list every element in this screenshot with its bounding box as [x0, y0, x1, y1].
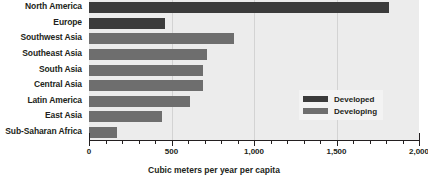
x-tick-1400 [320, 141, 321, 144]
x-tick-900 [238, 141, 239, 144]
category-label: Europe [0, 17, 82, 27]
x-tick-200 [122, 141, 123, 144]
category-label: Latin America [0, 95, 82, 105]
bar [89, 33, 234, 44]
x-tick-0 [89, 141, 90, 146]
x-tick-label: 1,000 [244, 147, 264, 156]
x-tick-1800 [386, 141, 387, 144]
chart-legend: Developed Developing [299, 90, 383, 120]
bar [89, 80, 203, 91]
x-tick-1900 [403, 141, 404, 144]
x-tick-1300 [304, 141, 305, 144]
category-label: North America [0, 1, 82, 11]
category-label: Southeast Asia [0, 48, 82, 58]
bar [89, 111, 162, 122]
x-tick-label: 1,500 [326, 147, 346, 156]
x-tick-1000 [254, 141, 255, 146]
bar [89, 49, 207, 60]
x-tick-700 [205, 141, 206, 144]
x-tick-400 [155, 141, 156, 144]
bar [89, 2, 389, 13]
x-tick-label: 0 [87, 147, 91, 156]
x-tick-100 [106, 141, 107, 144]
horizontal-bar-chart: North AmericaEuropeSouthwest AsiaSouthea… [0, 0, 428, 181]
x-tick-1600 [353, 141, 354, 144]
axis-cap-2000 [419, 133, 420, 141]
legend-label-developing: Developing [334, 107, 377, 116]
x-tick-label: 2,000 [409, 147, 428, 156]
category-label: East Asia [0, 110, 82, 120]
bar [89, 127, 117, 138]
bar [89, 96, 190, 107]
bar [89, 65, 203, 76]
x-tick-300 [139, 141, 140, 144]
category-label: Southwest Asia [0, 32, 82, 42]
x-tick-500 [172, 141, 173, 146]
x-tick-label: 500 [165, 147, 178, 156]
x-tick-800 [221, 141, 222, 144]
x-tick-1700 [370, 141, 371, 144]
category-label: Central Asia [0, 79, 82, 89]
gridline-1000 [254, 0, 255, 140]
x-tick-1200 [287, 141, 288, 144]
x-tick-1500 [337, 141, 338, 146]
x-tick-1100 [271, 141, 272, 144]
legend-item-developing: Developing [303, 105, 377, 117]
legend-label-developed: Developed [334, 95, 374, 104]
bar [89, 18, 165, 29]
legend-item-developed: Developed [303, 93, 377, 105]
x-tick-600 [188, 141, 189, 144]
x-axis-title: Cubic meters per year per capita [0, 165, 428, 175]
category-label: Sub-Saharan Africa [0, 126, 82, 136]
axis-cap-0 [89, 133, 90, 141]
x-tick-2000 [419, 141, 420, 146]
legend-swatch-developing [303, 108, 328, 114]
category-axis-labels: North AmericaEuropeSouthwest AsiaSouthea… [0, 0, 86, 140]
legend-swatch-developed [303, 96, 328, 102]
category-label: South Asia [0, 64, 82, 74]
